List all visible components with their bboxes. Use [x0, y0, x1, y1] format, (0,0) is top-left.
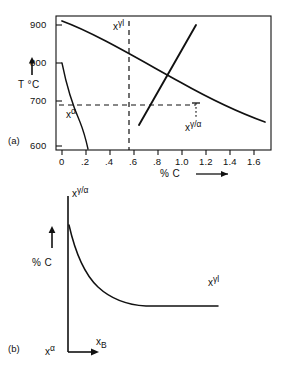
panel-a-label-x-gamma-alpha: xγ/α	[185, 120, 202, 133]
panel-a-label-x-gamma-l-sup: γl	[118, 18, 124, 28]
panel-a-xtick-02: .2	[81, 157, 89, 167]
panel-a-xtick-08: .8	[153, 157, 161, 167]
panel-a-xtick-12: 1.2	[199, 157, 213, 167]
panel-b-label-x-gamma-alpha-sup: γ/α	[77, 185, 89, 195]
panel-b-plot	[49, 196, 218, 356]
panel-a-ytick-900: 900	[30, 20, 46, 30]
panel-b-label-x-gamma-l: xγl	[208, 275, 219, 288]
panel-a-x-axis-arrow	[196, 171, 228, 177]
curve-a3-boundary	[62, 21, 265, 122]
panel-a-tag: (a)	[8, 136, 20, 146]
panel-a-y-ticks	[56, 25, 62, 146]
panel-b-label-x-gamma-alpha: xγ/α	[72, 186, 89, 199]
panel-a-label-x-gamma-l: xγl	[113, 19, 124, 32]
panel-a-ytick-600: 600	[30, 141, 46, 151]
panel-b-x-axis-title-sub: B	[101, 340, 107, 350]
panel-a-xtick-06: .6	[129, 157, 137, 167]
panel-b-y-arrow	[49, 226, 56, 248]
panel-a-x-ticks	[62, 150, 254, 155]
panel-a-label-x-gamma-alpha-sup: γ/α	[190, 119, 202, 129]
curve-carbon-profile	[69, 225, 218, 306]
panel-a-x-axis-title: % C	[160, 169, 180, 179]
panel-a-xtick-10: 1.0	[175, 157, 189, 167]
figure-root: (a) 900 800 700 600 T °C 0 .2 .4 .6 .8 1…	[0, 0, 290, 373]
panel-a-xtick-0: 0	[59, 157, 64, 167]
panel-a-xtick-16: 1.6	[247, 157, 261, 167]
panel-b-label-x-gamma-l-sup: γl	[213, 274, 219, 284]
panel-b-x-axis-title: xB	[96, 337, 107, 350]
panel-b-label-x-alpha: xα	[45, 344, 55, 357]
panel-a-label-x-alpha: xα	[66, 107, 76, 120]
panel-a-xtick-14: 1.4	[223, 157, 237, 167]
panel-a-y-axis-title: T °C	[18, 80, 40, 90]
panel-a-plot	[56, 16, 271, 177]
panel-b-tag: (b)	[8, 344, 20, 354]
panel-b-y-axis-title: % C	[32, 258, 52, 268]
curve-acm-line	[139, 25, 196, 125]
panel-a-label-x-alpha-sup: α	[71, 106, 76, 116]
figure-canvas	[0, 0, 290, 373]
panel-a-xtick-04: .4	[105, 157, 113, 167]
panel-a-ytick-700: 700	[30, 96, 46, 106]
panel-b-x-axis-arrowhead	[91, 349, 99, 356]
panel-b-label-x-alpha-sup: α	[50, 343, 55, 353]
panel-a-ytick-800: 800	[30, 58, 46, 68]
